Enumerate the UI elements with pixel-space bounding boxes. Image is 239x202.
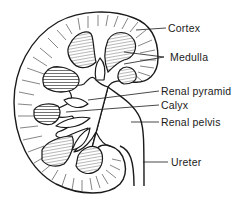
label-cortex: Cortex bbox=[168, 22, 200, 34]
kidney-illustration bbox=[0, 0, 239, 202]
label-medulla: Medulla bbox=[170, 51, 208, 63]
kidney-diagram: Cortex Medulla Renal pyramid Calyx Renal… bbox=[0, 0, 239, 202]
pyramid-5 bbox=[34, 104, 60, 125]
label-calyx: Calyx bbox=[161, 99, 188, 111]
pyramid-3 bbox=[118, 67, 136, 84]
label-renal-pelvis: Renal pelvis bbox=[161, 116, 221, 128]
label-ureter: Ureter bbox=[171, 156, 201, 168]
label-renal-pyramid: Renal pyramid bbox=[161, 85, 231, 97]
